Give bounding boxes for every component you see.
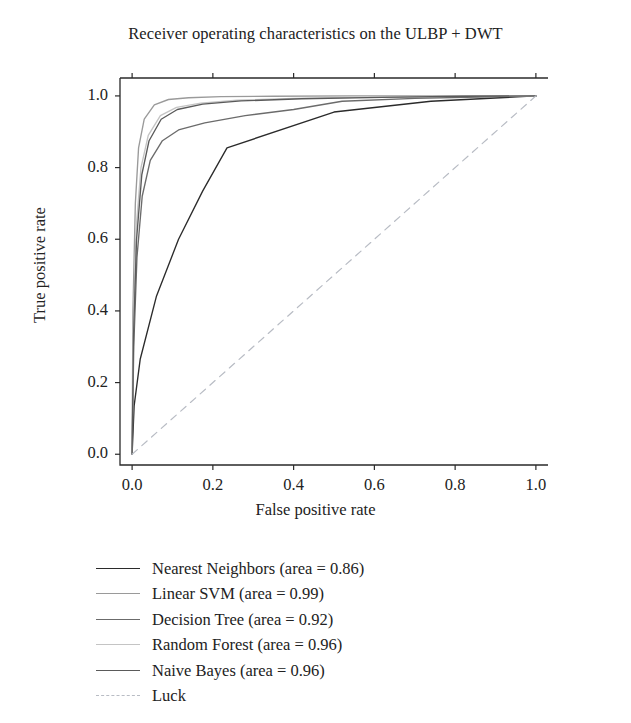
legend-swatch-line-icon <box>96 587 140 601</box>
y-tick-label-0: 0.0 <box>48 443 108 463</box>
legend-item[interactable]: Nearest Neighbors (area = 0.86) <box>96 556 516 582</box>
y-tick-label-3: 0.6 <box>48 228 108 248</box>
x-tick-label-2: 0.4 <box>264 475 324 495</box>
x-tick-label-0: 0.0 <box>102 475 162 495</box>
x-tick-label-4: 0.8 <box>425 475 485 495</box>
legend-item[interactable]: Luck <box>96 684 516 710</box>
y-tick-label-5: 1.0 <box>48 85 108 105</box>
x-tick-label-1: 0.2 <box>183 475 243 495</box>
y-tick-label-4: 0.8 <box>48 157 108 177</box>
legend-item-label: Linear SVM (area = 0.99) <box>152 584 324 604</box>
legend-swatch-line-icon <box>96 638 140 652</box>
roc-figure: Receiver operating characteristics on th… <box>0 0 631 723</box>
legend-swatch-line-icon <box>96 562 140 576</box>
legend-item-label: Nearest Neighbors (area = 0.86) <box>152 559 364 579</box>
legend-item[interactable]: Decision Tree (area = 0.92) <box>96 607 516 633</box>
legend-item-label: Random Forest (area = 0.96) <box>152 635 342 655</box>
chart-legend: Nearest Neighbors (area = 0.86)Linear SV… <box>96 556 516 709</box>
x-tick-label-5: 1.0 <box>506 475 566 495</box>
legend-item[interactable]: Linear SVM (area = 0.99) <box>96 582 516 608</box>
legend-item-label: Luck <box>152 686 186 706</box>
legend-swatch-line-icon <box>96 664 140 678</box>
legend-item-label: Decision Tree (area = 0.92) <box>152 610 333 630</box>
legend-swatch-line-icon <box>96 689 140 703</box>
y-tick-label-1: 0.2 <box>48 372 108 392</box>
series-line-luck <box>132 96 536 454</box>
legend-item-label: Naive Bayes (area = 0.96) <box>152 661 325 681</box>
x-tick-label-3: 0.6 <box>344 475 404 495</box>
legend-swatch-line-icon <box>96 613 140 627</box>
legend-item[interactable]: Random Forest (area = 0.96) <box>96 633 516 659</box>
y-tick-label-2: 0.4 <box>48 300 108 320</box>
axis-spines <box>120 78 548 465</box>
legend-item[interactable]: Naive Bayes (area = 0.96) <box>96 658 516 684</box>
